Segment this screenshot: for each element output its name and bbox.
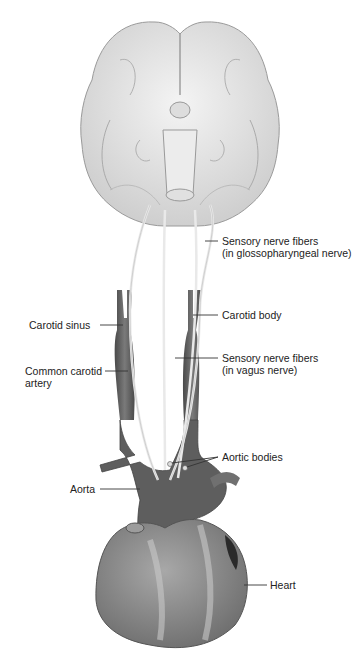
aortic-body-dot-2	[183, 466, 188, 471]
illustration	[0, 0, 361, 666]
nerve-fibers	[130, 205, 213, 480]
label-aortic-bodies: Aortic bodies	[222, 451, 283, 463]
label-line: Sensory nerve fibers	[222, 235, 352, 247]
label-aorta: Aorta	[70, 483, 95, 495]
label-line: (in vagus nerve)	[222, 364, 318, 376]
label-heart: Heart	[270, 579, 296, 591]
label-carotid-sinus: Carotid sinus	[29, 319, 90, 331]
heart	[96, 519, 247, 647]
brain	[81, 22, 280, 226]
label-line: Sensory nerve fibers	[222, 352, 318, 364]
label-common-carotid-artery: Common carotid artery	[25, 365, 102, 389]
label-carotid-body: Carotid body	[222, 309, 282, 321]
label-line: (in glossopharyngeal nerve)	[222, 247, 352, 259]
label-line: artery	[25, 377, 102, 389]
label-line: Common carotid	[25, 365, 102, 377]
anatomy-diagram: Sensory nerve fibers (in glossopharyngea…	[0, 0, 361, 666]
label-vagus-fibers: Sensory nerve fibers (in vagus nerve)	[222, 352, 318, 376]
label-glossopharyngeal-fibers: Sensory nerve fibers (in glossopharyngea…	[222, 235, 352, 259]
aortic-body-dot-1	[168, 462, 173, 467]
